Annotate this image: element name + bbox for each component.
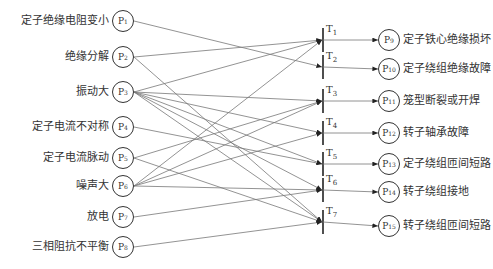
- place-P15: P15: [378, 215, 400, 237]
- place-P3: P3: [112, 81, 134, 103]
- arc-P3-T5: [134, 92, 322, 164]
- place-label: 绝缘分解: [65, 50, 109, 64]
- place-label: 定子绕组匝间短路: [403, 157, 491, 171]
- arc-T2-P10: [323, 67, 378, 69]
- arc-P3-T3: [134, 92, 322, 101]
- place-P7: P7: [112, 206, 134, 228]
- place-label: 定子电流脉动: [43, 151, 109, 165]
- arc-P3-T7: [134, 92, 322, 222]
- place-label: 转子绕组接地: [403, 185, 469, 199]
- arc-P6-T6: [134, 186, 322, 190]
- place-P2: P2: [112, 46, 134, 68]
- place-label: 笼型断裂或开焊: [403, 94, 480, 108]
- place-P8: P8: [112, 236, 134, 258]
- place-label: 定子绝缘电阻变小: [21, 14, 109, 28]
- place-label: 三相阻抗不平衡: [32, 240, 109, 254]
- place-P10: P10: [378, 58, 400, 80]
- place-label: 噪声大: [76, 179, 109, 193]
- arc-P6-T1: [134, 40, 322, 186]
- arc-P1-T2: [134, 21, 322, 67]
- arc-P2-T1: [134, 40, 322, 57]
- arc-P3-T1: [134, 40, 322, 92]
- arc-P5-T7: [134, 158, 322, 222]
- place-label: 振动大: [76, 85, 109, 99]
- transition-label: T4: [326, 116, 337, 132]
- transition-label: T1: [326, 23, 337, 39]
- place-label: 转子绕组匝间短路: [403, 219, 491, 233]
- transition-label: T5: [326, 147, 337, 163]
- place-P9: P9: [378, 29, 400, 51]
- place-P1: P1: [112, 10, 134, 32]
- place-label: 转子轴承故障: [403, 126, 469, 140]
- transition-label: T3: [326, 84, 337, 100]
- arc-P8-T7: [134, 222, 322, 247]
- place-label: 放电: [87, 210, 109, 224]
- place-label: 定子绕组绝缘故障: [403, 62, 491, 76]
- place-P4: P4: [112, 116, 134, 138]
- transition-label: T6: [326, 173, 337, 189]
- place-label: 定子铁心绝缘损坏: [403, 33, 491, 47]
- place-P14: P14: [378, 181, 400, 203]
- arc-P5-T3: [134, 101, 322, 158]
- transition-label: T2: [326, 50, 337, 66]
- arc-T7-P15: [323, 222, 378, 226]
- arc-T6-P14: [323, 190, 378, 192]
- place-P11: P11: [378, 90, 400, 112]
- place-P13: P13: [378, 153, 400, 175]
- place-P5: P5: [112, 147, 134, 169]
- place-P6: P6: [112, 175, 134, 197]
- transition-label: T7: [326, 205, 337, 221]
- arc-P4-T5: [134, 127, 322, 164]
- arc-P2-T7: [134, 57, 322, 222]
- place-P12: P12: [378, 122, 400, 144]
- place-label: 定子电流不对称: [32, 120, 109, 134]
- arc-P6-T3: [134, 101, 322, 186]
- arc-P7-T6: [134, 190, 322, 217]
